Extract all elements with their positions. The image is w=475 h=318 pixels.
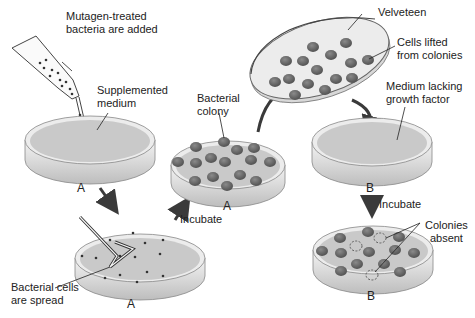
plate-3-colonies: [171, 137, 285, 207]
label-medium-lacking-line2: growth factor: [386, 93, 462, 106]
label-mutagen-line2: bacteria are added: [66, 23, 158, 36]
label-colony-line1: Bacterial: [197, 92, 240, 105]
velveteen-disc: [240, 1, 401, 118]
plate-2-spread: [75, 217, 205, 300]
label-colonies-absent-line1: Colonies: [425, 219, 468, 232]
label-cells-lifted-line1: Cells lifted: [397, 36, 462, 49]
plate-3-letter: A: [223, 199, 231, 213]
pipette-icon: [12, 36, 85, 124]
label-spread-line2: are spread: [11, 294, 79, 307]
label-medium-lacking: Medium lacking growth factor: [386, 80, 462, 106]
label-colonies-absent: Colonies absent: [425, 219, 468, 245]
label-spread-line1: Bacterial cells: [11, 281, 79, 294]
label-incubate-2: Incubate: [379, 198, 421, 211]
label-cells-lifted: Cells lifted from colonies: [397, 36, 462, 62]
label-supplemented: Supplemented medium: [97, 84, 168, 110]
label-supplemented-line1: Supplemented: [97, 84, 168, 97]
plate-5-letter: B: [367, 289, 375, 303]
plate-1-supplemented: [25, 116, 155, 184]
plate-4-lacking-medium: [312, 118, 432, 186]
label-incubate-1: Incubate: [180, 213, 222, 226]
plate-1-letter: A: [77, 181, 85, 195]
label-medium-lacking-line1: Medium lacking: [386, 80, 462, 93]
label-spread: Bacterial cells are spread: [11, 281, 79, 307]
plate-5-colonies-absent: [313, 226, 433, 294]
label-mutagen-line1: Mutagen-treated: [66, 10, 158, 23]
label-colony-line2: colony: [197, 105, 240, 118]
label-mutagen: Mutagen-treated bacteria are added: [66, 10, 158, 36]
arrow-icon: [100, 188, 112, 205]
label-supplemented-line2: medium: [97, 97, 168, 110]
plate-2-letter: A: [127, 297, 135, 311]
label-velveteen: Velveteen: [378, 6, 426, 19]
label-colony: Bacterial colony: [197, 92, 240, 118]
label-cells-lifted-line2: from colonies: [397, 49, 462, 62]
plate-4-letter: B: [366, 181, 374, 195]
label-colonies-absent-line2: absent: [425, 232, 468, 245]
